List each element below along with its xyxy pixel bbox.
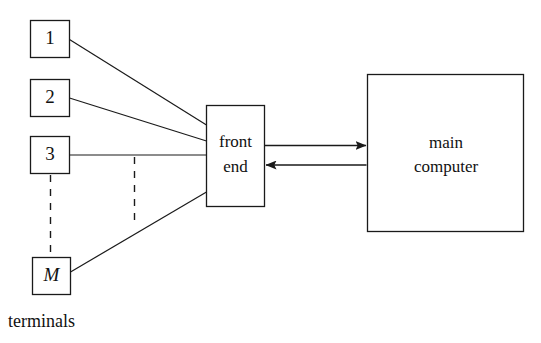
- connector-terminal-2: [70, 98, 207, 141]
- terminal-box-m[interactable]: [33, 258, 71, 295]
- terminal-box-3[interactable]: [31, 137, 70, 174]
- front-end-box[interactable]: [207, 106, 265, 207]
- terminal-box-1[interactable]: [31, 21, 70, 58]
- diagram-svg: [0, 0, 541, 343]
- diagram-canvas: 1 2 3 M front end main computer terminal…: [0, 0, 541, 343]
- terminal-box-2[interactable]: [31, 80, 70, 117]
- connector-terminal-1: [70, 40, 207, 126]
- main-computer-box[interactable]: [368, 75, 524, 232]
- terminals-caption: terminals: [8, 311, 75, 332]
- connector-terminal-m: [71, 192, 207, 272]
